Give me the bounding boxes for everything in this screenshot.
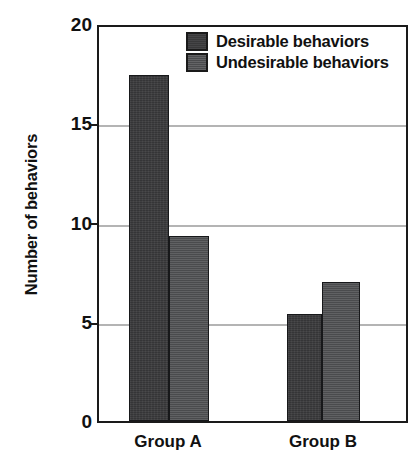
legend-item-undesirable: Undesirable behaviors <box>186 53 389 72</box>
y-tick-mark-10 <box>89 223 97 225</box>
y-tick-label-0: 0 <box>36 412 92 431</box>
legend-item-desirable: Desirable behaviors <box>186 32 389 51</box>
bar-chart-figure: Number of behaviors 20 15 10 5 0 Desirab… <box>0 0 417 469</box>
y-tick-label-20: 20 <box>36 15 92 34</box>
bar-group-a-undesirable <box>169 236 209 421</box>
bar-group-a-desirable <box>129 75 169 421</box>
x-tick-label-group-a: Group A <box>127 432 209 452</box>
x-tick-label-group-b: Group B <box>285 432 361 452</box>
plot-area: Desirable behaviors Undesirable behavior… <box>97 25 408 423</box>
y-tick-mark-5 <box>89 323 97 325</box>
legend: Desirable behaviors Undesirable behavior… <box>186 32 389 72</box>
legend-swatch-undesirable-icon <box>186 53 208 72</box>
legend-label-desirable: Desirable behaviors <box>216 32 369 51</box>
bar-group-b-desirable <box>287 314 322 421</box>
bar-group-b-undesirable <box>322 282 360 421</box>
y-tick-mark-15 <box>89 124 97 126</box>
legend-swatch-desirable-icon <box>186 32 208 51</box>
legend-label-undesirable: Undesirable behaviors <box>216 53 389 72</box>
y-tick-label-5: 5 <box>36 313 92 332</box>
y-tick-label-15: 15 <box>36 114 92 133</box>
y-tick-label-10: 10 <box>36 214 92 233</box>
